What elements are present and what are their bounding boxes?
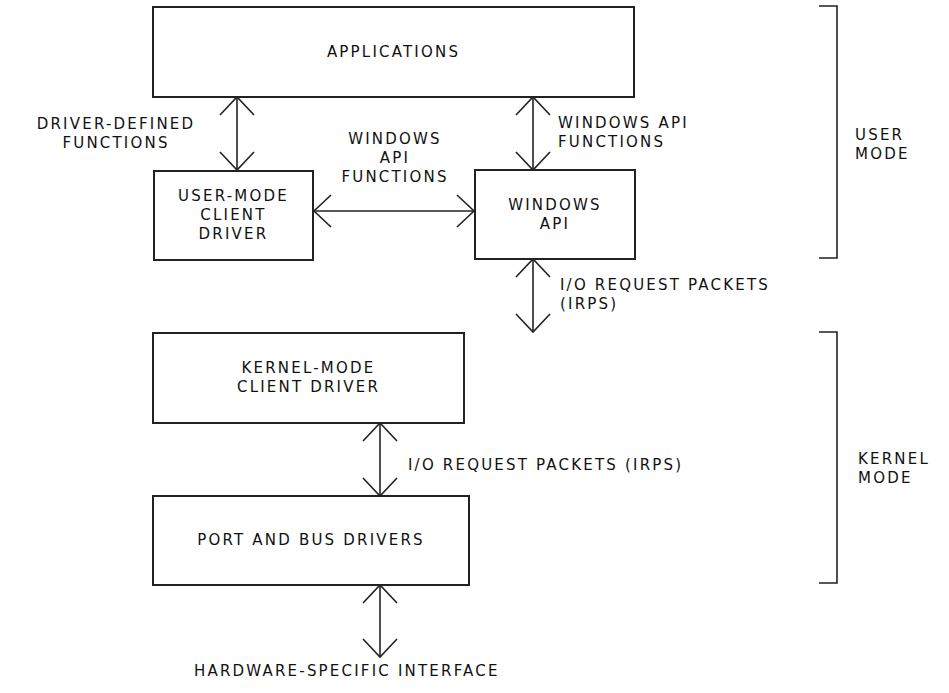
windows-api-functions-middle-label: WINDOWS API FUNCTIONS <box>320 130 470 187</box>
arrow-kmdriver-to-portbus <box>363 423 397 496</box>
user-mode-bracket <box>819 6 837 258</box>
driver-architecture-diagram: APPLICATIONS USER-MODE CLIENT DRIVER WIN… <box>0 0 949 693</box>
arrow-apps-to-winapi <box>516 97 550 170</box>
arrow-umdriver-to-winapi <box>314 195 474 227</box>
kernel-mode-bracket <box>819 332 837 583</box>
windows-api-label: WINDOWS API <box>508 196 602 234</box>
applications-box: APPLICATIONS <box>152 6 635 98</box>
driver-defined-functions-label: DRIVER-DEFINED FUNCTIONS <box>16 115 216 153</box>
kernel-mode-label: KERNEL MODE <box>858 450 930 488</box>
windows-api-box: WINDOWS API <box>474 169 636 260</box>
user-mode-client-driver-box: USER-MODE CLIENT DRIVER <box>153 170 314 261</box>
irps-upper-label: I/O REQUEST PACKETS (IRPS) <box>560 276 770 314</box>
arrow-portbus-to-hardware <box>363 585 397 657</box>
port-and-bus-drivers-box: PORT AND BUS DRIVERS <box>152 495 470 586</box>
arrow-winapi-to-kmdriver <box>516 259 550 332</box>
applications-label: APPLICATIONS <box>327 43 460 62</box>
windows-api-functions-right-label: WINDOWS API FUNCTIONS <box>558 114 689 152</box>
connector-arrows <box>0 0 949 693</box>
arrow-apps-to-umdriver <box>220 97 254 170</box>
hardware-specific-interface-label: HARDWARE-SPECIFIC INTERFACE <box>194 662 500 681</box>
kernel-mode-client-driver-box: KERNEL-MODE CLIENT DRIVER <box>152 332 465 424</box>
port-and-bus-drivers-label: PORT AND BUS DRIVERS <box>197 531 425 550</box>
user-mode-label: USER MODE <box>855 126 910 164</box>
user-mode-client-driver-label: USER-MODE CLIENT DRIVER <box>178 187 289 244</box>
irps-lower-label: I/O REQUEST PACKETS (IRPS) <box>408 456 683 475</box>
kernel-mode-client-driver-label: KERNEL-MODE CLIENT DRIVER <box>237 359 380 397</box>
